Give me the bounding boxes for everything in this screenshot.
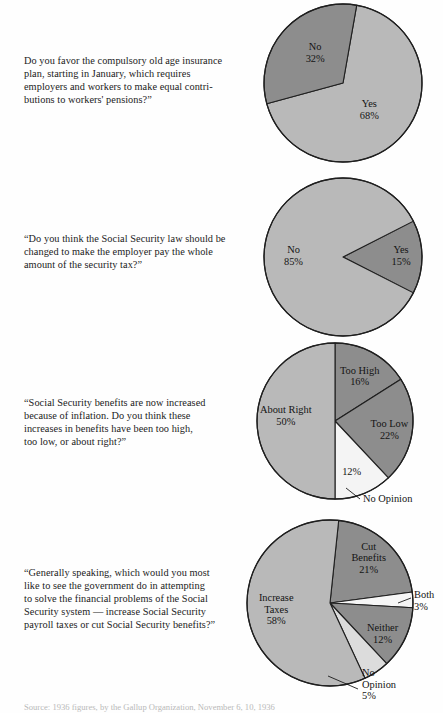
source-note: Source: 1936 figures, by the Gallup Orga… xyxy=(24,702,424,713)
poll-panel-2: “Do you think the Social Security law sh… xyxy=(0,170,443,338)
pie-chart-2: Yes15%No85% xyxy=(246,176,441,338)
question-line: like to see the government do in attempt… xyxy=(24,579,252,592)
pie-slice xyxy=(257,343,335,499)
question-line: “Do you think the Social Security law sh… xyxy=(24,232,252,245)
question-line: to solve the financial problems of the S… xyxy=(24,592,252,605)
pie-callout-label: No Opinion xyxy=(363,493,413,504)
pie-chart-4: CutBenefits21%Neither12%IncreaseTaxes58%… xyxy=(238,510,443,702)
pie-chart-1-svg: Yes68%No32% xyxy=(246,2,441,168)
question-line: changed to make the employer pay the who… xyxy=(24,245,252,258)
pie-chart-3: Too High16%Too Low22%12%About Right50%No… xyxy=(242,342,442,508)
pie-callout-label: NoOpinion5% xyxy=(362,667,397,701)
question-line: amount of the security tax?” xyxy=(24,258,252,271)
question-line: Do you favor the compulsory old age insu… xyxy=(24,54,252,67)
question-line: too low, or about right?” xyxy=(24,435,252,448)
question-line: because of inflation. Do you think these xyxy=(24,409,252,422)
question-line: payroll taxes or cut Social Security ben… xyxy=(24,618,252,631)
question-line: plan, starting in January, which require… xyxy=(24,67,252,80)
pie-slice-label: Yes68% xyxy=(360,98,379,121)
poll-figure-page: Do you favor the compulsory old age insu… xyxy=(0,0,443,713)
question-line: butions to workers' pensions?” xyxy=(24,93,252,106)
question-text-4: “Generally speaking, which would you mos… xyxy=(24,566,252,631)
question-line: Security system — increase Social Securi… xyxy=(24,605,252,618)
question-line: employers and workers to make equal cont… xyxy=(24,80,252,93)
pie-slice-label: Yes15% xyxy=(392,245,411,268)
question-line: “Social Security benefits are now increa… xyxy=(24,396,252,409)
pie-slice-label: 12% xyxy=(342,466,361,477)
poll-panel-1: Do you favor the compulsory old age insu… xyxy=(0,0,443,168)
poll-panel-4: “Generally speaking, which would you mos… xyxy=(0,506,443,703)
pie-chart-4-svg: CutBenefits21%Neither12%IncreaseTaxes58%… xyxy=(238,510,443,702)
pie-callout-label: Both3% xyxy=(414,589,435,612)
question-text-3: “Social Security benefits are now increa… xyxy=(24,396,252,448)
question-text-2: “Do you think the Social Security law sh… xyxy=(24,232,252,271)
question-line: “Generally speaking, which would you mos… xyxy=(24,566,252,579)
pie-chart-3-svg: Too High16%Too Low22%12%About Right50%No… xyxy=(242,342,442,508)
question-line: increases in benefits have been too high… xyxy=(24,422,252,435)
question-text-1: Do you favor the compulsory old age insu… xyxy=(24,54,252,106)
poll-panel-3: “Social Security benefits are now increa… xyxy=(0,338,443,506)
pie-chart-2-svg: Yes15%No85% xyxy=(246,176,441,338)
pie-chart-1: Yes68%No32% xyxy=(246,2,441,168)
